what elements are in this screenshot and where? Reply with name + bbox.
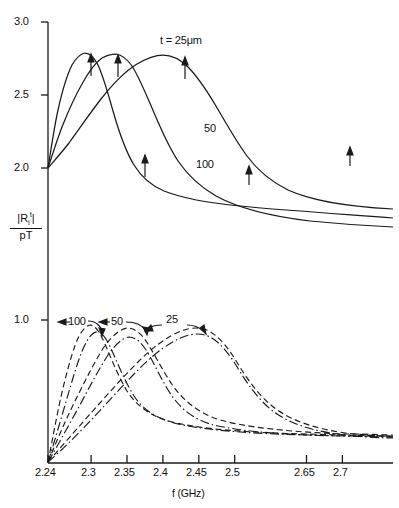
series-label-t50-upper: 50 [204, 122, 216, 134]
series-label-t25-upper: t = 25μm [160, 34, 202, 46]
leader-50-right [126, 322, 149, 335]
y-axis-label-denominator: pT [10, 229, 42, 242]
leader-25-left [145, 325, 162, 331]
y-tick-label-3.0: 3.0 [14, 15, 29, 27]
x-ticks [48, 455, 342, 463]
curve-t50-upper [48, 54, 393, 227]
curve-t25-lower-dashed [48, 328, 393, 462]
figure-canvas: 3.0 2.5 2.0 1.0 |Rit| pT 2.24 2.3 2.35 2… [0, 0, 399, 508]
curve-t100-upper [48, 53, 393, 218]
y-ticks-upper [41, 22, 48, 168]
y-axis-label: |Rit| pT [10, 211, 42, 241]
curve-t100-lower-dashed [48, 325, 393, 462]
tail-arrow-25 [347, 147, 353, 166]
x-axis-label: f (GHz) [172, 487, 204, 499]
curve-t50-lower-dashdot [48, 337, 393, 462]
peak-arrow-25 [182, 57, 188, 79]
leader-50-left [99, 319, 110, 325]
y-tick-label-2.5: 2.5 [14, 88, 29, 100]
peak-arrow-50 [115, 55, 121, 77]
curve-t100-lower-dashdot [48, 332, 393, 462]
y-axis-label-numerator: |Rit| [10, 211, 42, 229]
x-tick-label-2.7: 2.7 [333, 466, 348, 478]
series-label-t50-lower: 50 [111, 315, 123, 327]
y-tick-label-2.0: 2.0 [14, 161, 29, 173]
chart-svg [0, 0, 399, 508]
upper-panel-arrows [88, 54, 353, 185]
series-label-t100-lower: 100 [68, 315, 86, 327]
curve-t50-lower-dashed [48, 328, 393, 462]
curve-t25-upper [48, 55, 393, 209]
series-label-t25-lower: 25 [166, 313, 178, 325]
x-tick-label-2.3: 2.3 [81, 466, 96, 478]
x-tick-label-2.65: 2.65 [294, 466, 315, 478]
curve-t25-lower-dashdot [48, 334, 393, 462]
series-label-t100-upper: 100 [196, 158, 214, 170]
x-tick-label-2.45: 2.45 [186, 466, 207, 478]
tail-arrow-50 [246, 166, 252, 185]
upper-panel-curves [48, 53, 393, 227]
x-tick-label-2.5: 2.5 [225, 466, 240, 478]
x-tick-label-2.35: 2.35 [114, 466, 135, 478]
x-tick-label-2.24: 2.24 [35, 466, 56, 478]
tail-arrow-100 [142, 155, 148, 177]
lower-panel-curves [48, 325, 393, 462]
leader-25-right [187, 325, 206, 334]
axis-group [48, 22, 393, 463]
y-tick-label-1.0: 1.0 [14, 313, 29, 325]
x-tick-label-2.4: 2.4 [153, 466, 168, 478]
